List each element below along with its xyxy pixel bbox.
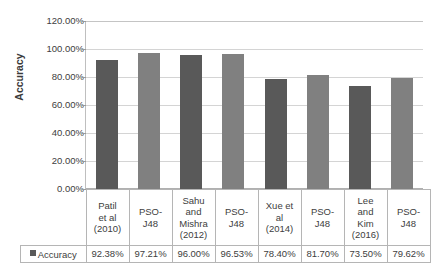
legend-label: Accuracy — [38, 249, 77, 260]
category-label-line: Sahu — [173, 195, 215, 207]
plot-area — [85, 21, 423, 189]
category-label-line: J48 — [130, 218, 172, 230]
legend-swatch-icon — [30, 250, 36, 256]
category-label-line: PSO- — [388, 206, 430, 218]
table-row-categories: Patilet al(2010)PSO-J48SahuandMishra(201… — [21, 190, 431, 246]
table-cell-category: PSO-J48 — [301, 190, 344, 246]
y-axis-tick-label: 20.00% — [28, 155, 84, 166]
table-cell-value: 78.40% — [258, 246, 301, 263]
category-label-line: and — [173, 206, 215, 218]
bar-chart: Accuracy 120.00%100.00%80.00%60.00%40.00… — [0, 0, 442, 277]
y-axis-tick-label: 60.00% — [28, 99, 84, 110]
category-label-line: PSO- — [216, 206, 258, 218]
category-label-line: PSO- — [130, 206, 172, 218]
table-cell-value: 73.50% — [344, 246, 387, 263]
bar — [96, 60, 118, 189]
category-label-line: Kim — [345, 218, 387, 230]
category-label-line: (2014) — [259, 223, 301, 235]
table-cell-category: PSO-J48 — [387, 190, 430, 246]
y-axis-tick-label: 40.00% — [28, 127, 84, 138]
table-cell-category: SahuandMishra(2012) — [172, 190, 215, 246]
y-axis-tick-label: 100.00% — [28, 43, 84, 54]
category-label-line: Lee — [345, 195, 387, 207]
table-cell-category: Patilet al(2010) — [86, 190, 129, 246]
category-row-spacer — [21, 190, 87, 246]
category-label-line: (2010) — [87, 223, 129, 235]
y-axis-tick-labels: 120.00%100.00%80.00%60.00%40.00%20.00%0.… — [28, 0, 84, 200]
table-cell-category: PSO-J48 — [129, 190, 172, 246]
data-table: Patilet al(2010)PSO-J48SahuandMishra(201… — [20, 189, 431, 263]
category-label-line: Xue et — [259, 200, 301, 212]
category-label-line: Patil — [87, 200, 129, 212]
category-label-line: al — [259, 212, 301, 224]
category-label-line: Mishra — [173, 218, 215, 230]
bar — [265, 79, 287, 189]
table-cell-category: PSO-J48 — [215, 190, 258, 246]
bar — [222, 54, 244, 189]
table-row-values: Accuracy 92.38%97.21%96.00%96.53%78.40%8… — [21, 246, 431, 263]
bar — [349, 86, 371, 189]
table-cell-category: LeeandKim(2016) — [344, 190, 387, 246]
bar — [180, 55, 202, 189]
bars-layer — [86, 21, 423, 189]
bar — [307, 75, 329, 189]
table-cell-value: 79.62% — [387, 246, 430, 263]
category-label-line: PSO- — [302, 206, 344, 218]
table-cell-value: 92.38% — [86, 246, 129, 263]
table-cell-category: Xue etal(2014) — [258, 190, 301, 246]
bar — [391, 78, 413, 189]
table-cell-value: 96.53% — [215, 246, 258, 263]
bar — [138, 53, 160, 189]
category-label-line: and — [345, 206, 387, 218]
category-label-line: (2012) — [173, 229, 215, 241]
y-axis-tick-label: 120.00% — [28, 15, 84, 26]
category-label-line: J48 — [216, 218, 258, 230]
table-cell-value: 96.00% — [172, 246, 215, 263]
table-cell-value: 81.70% — [301, 246, 344, 263]
category-label-line: et al — [87, 212, 129, 224]
y-axis-title: Accuracy — [13, 37, 27, 117]
category-label-line: (2016) — [345, 229, 387, 241]
category-label-line: J48 — [388, 218, 430, 230]
category-label-line: J48 — [302, 218, 344, 230]
y-axis-tick-label: 80.00% — [28, 71, 84, 82]
table-cell-value: 97.21% — [129, 246, 172, 263]
legend-entry-accuracy: Accuracy — [21, 246, 87, 263]
